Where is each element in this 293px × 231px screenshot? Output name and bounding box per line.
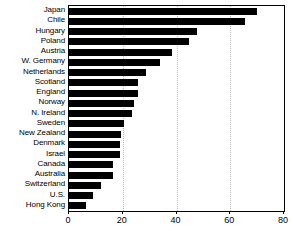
category-label: Australia [0,170,65,178]
bar-row [69,182,284,189]
bar [69,38,189,45]
bar [69,120,124,127]
category-label: Canada [0,160,65,168]
bar [69,141,120,148]
bar [69,151,120,158]
bar [69,18,245,25]
x-tick-mark [176,211,177,214]
bar-row [69,172,284,179]
category-label: Scotland [0,78,65,86]
category-label: Sweden [0,119,65,127]
bar-row [69,131,284,138]
x-tick-label: 0 [65,215,70,225]
category-label: Hungary [0,27,65,35]
x-tick-label: 80 [278,215,288,225]
bar-row [69,151,284,158]
x-tick-label: 40 [170,215,180,225]
bar-row [69,141,284,148]
bar-row [69,161,284,168]
bar [69,100,134,107]
bar-row [69,69,284,76]
x-tick-mark [122,211,123,214]
bar-row [69,90,284,97]
bar [69,28,197,35]
category-label: England [0,88,65,96]
category-label: Chile [0,16,65,24]
bar [69,182,101,189]
bar-row [69,100,284,107]
bar-row [69,18,284,25]
bar-rows [69,6,284,211]
bar-chart: JapanChileHungaryPolandAustriaW. Germany… [0,0,293,231]
bar [69,192,93,199]
x-axis: 020406080 [0,211,293,231]
bar [69,49,172,56]
x-tick-label: 20 [117,215,127,225]
category-label: Switzerland [0,180,65,188]
bar-row [69,192,284,199]
category-label: W. Germany [0,57,65,65]
plot-area [68,5,285,212]
bar-row [69,49,284,56]
x-tick-mark [229,211,230,214]
category-label: Netherlands [0,68,65,76]
bar [69,161,113,168]
category-label: U.S. [0,191,65,199]
bar [69,110,132,117]
x-tick-label: 60 [224,215,234,225]
bar [69,131,121,138]
bar-row [69,28,284,35]
category-label: Denmark [0,139,65,147]
bar [69,90,138,97]
category-label: Poland [0,37,65,45]
x-tick-mark [68,211,69,214]
bar-row [69,120,284,127]
bar [69,202,86,209]
bar [69,8,257,15]
bar [69,172,113,179]
x-tick-mark [283,211,284,214]
category-label: N. Ireland [0,109,65,117]
category-axis-labels: JapanChileHungaryPolandAustriaW. Germany… [0,5,65,210]
bar-row [69,38,284,45]
category-label: Norway [0,98,65,106]
category-label: Israel [0,150,65,158]
bar [69,69,146,76]
category-label: Japan [0,6,65,14]
bar-row [69,202,284,209]
category-label: New Zealand [0,129,65,137]
bar [69,79,138,86]
bar-row [69,110,284,117]
bar-row [69,8,284,15]
bar-row [69,79,284,86]
category-label: Austria [0,47,65,55]
bar [69,59,160,66]
bar-row [69,59,284,66]
category-label: Hong Kong [0,201,65,209]
